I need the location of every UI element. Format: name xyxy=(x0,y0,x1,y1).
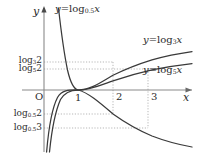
eq-equals: = xyxy=(61,3,69,14)
x-axis-label: x xyxy=(183,92,189,103)
eq-arg: x xyxy=(177,34,183,45)
equation-label-log-base-3: y=log3x xyxy=(143,35,182,46)
curve-log-base-5 xyxy=(50,64,193,152)
x-tick-label-3: 3 xyxy=(151,92,157,102)
x-tick-label-1: 1 xyxy=(75,93,81,103)
log-text: log xyxy=(14,122,28,132)
y-tick-label-log5-2: log52 xyxy=(2,64,42,74)
eq-base: 0.5 xyxy=(85,7,94,14)
log-text: log xyxy=(19,63,33,73)
y-tick-label-log05-3: log0.53 xyxy=(0,123,42,133)
eq-equals: = xyxy=(149,34,157,45)
log-arg: 2 xyxy=(36,108,42,118)
log-base: 0.5 xyxy=(28,112,37,118)
eq-arg: x xyxy=(94,3,100,14)
log-arg: 2 xyxy=(36,63,42,73)
log-arg: 3 xyxy=(36,122,42,132)
x-tick-label-2: 2 xyxy=(116,92,122,102)
y-axis-label: y xyxy=(33,6,39,17)
eq-log: log xyxy=(69,3,85,14)
y-axis-arrow xyxy=(41,6,46,13)
y-tick-label-log05-2: log0.52 xyxy=(0,109,42,119)
eq-equals: = xyxy=(149,64,157,75)
logarithm-graph-figure: y x O y=log0.5x y=log3x y=log5x log32 lo… xyxy=(0,0,205,159)
log-base: 0.5 xyxy=(28,126,37,132)
graph-canvas xyxy=(0,0,205,159)
eq-arg: x xyxy=(177,64,183,75)
equation-label-log-base-5: y=log5x xyxy=(143,65,182,76)
eq-log: log xyxy=(157,34,173,45)
eq-log: log xyxy=(157,64,173,75)
equation-label-log-base-0point5: y=log0.5x xyxy=(55,4,100,15)
origin-label: O xyxy=(35,92,43,102)
log-text: log xyxy=(14,108,28,118)
